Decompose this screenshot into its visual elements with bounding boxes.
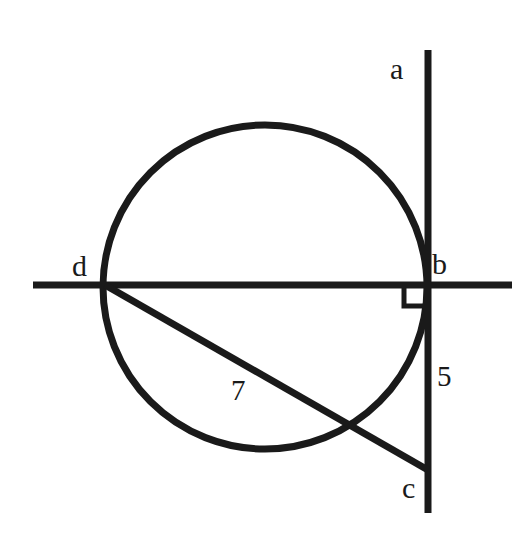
label-point-b: b: [432, 249, 447, 279]
label-point-c: c: [402, 473, 415, 503]
label-point-d: d: [72, 251, 87, 281]
geometry-diagram-canvas: a b c d 5 7: [0, 0, 525, 543]
diagonal-line-dc: [105, 285, 428, 470]
label-segment-bc-length: 5: [437, 362, 452, 391]
label-point-a: a: [390, 54, 403, 84]
label-segment-dc-length: 7: [231, 376, 246, 405]
